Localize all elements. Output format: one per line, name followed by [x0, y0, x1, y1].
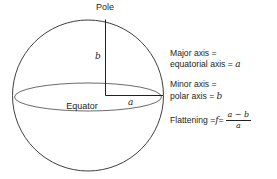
ellipsoid-flattening-diagram: Pole Equator b a Major axis = equatorial… — [0, 0, 277, 179]
fraction-numerator: a − b — [226, 110, 252, 120]
flattening-label: Flattening = — [170, 115, 215, 126]
minor-axis-annotation: Minor axis = polar axis = b — [170, 79, 277, 101]
minor-axis-variable: b — [217, 91, 223, 101]
fraction-denominator: a — [234, 121, 243, 131]
semi-major-axis-label: a — [128, 97, 133, 108]
pole-label: Pole — [84, 2, 126, 13]
flattening-fraction: a − ba — [226, 110, 252, 130]
flattening-equals: = — [219, 115, 224, 126]
major-axis-line1: Major axis = — [170, 48, 217, 58]
minor-axis-line1: Minor axis = — [170, 79, 217, 89]
flattening-formula: Flattening = f = a − ba — [170, 111, 277, 131]
semi-minor-axis-label: b — [95, 51, 101, 62]
major-axis-line2-prefix: equatorial axis = — [170, 59, 235, 69]
minor-axis-line2-prefix: polar axis = — [170, 91, 217, 101]
major-axis-annotation: Major axis = equatorial axis = a — [170, 48, 277, 70]
equator-label: Equator — [53, 101, 111, 112]
major-axis-variable: a — [235, 59, 240, 69]
annotation-text-block: Major axis = equatorial axis = a Minor a… — [170, 48, 277, 131]
